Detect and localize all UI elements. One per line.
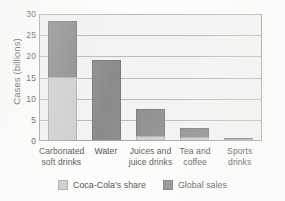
chart-figure: Cases (billions) 051015202530 Carbonated… <box>0 0 285 201</box>
x-axis-label-tea-and-coffee: Tea andcoffee <box>173 146 218 167</box>
y-axis-tick-20: 20 <box>26 51 36 61</box>
x-axis-label-water: Water <box>84 146 129 167</box>
y-axis-tick-25: 25 <box>26 30 36 40</box>
bar-slot <box>40 15 84 140</box>
legend-swatch-icon <box>58 180 68 190</box>
y-axis-tick-30: 30 <box>26 9 36 19</box>
bar-water[interactable] <box>92 60 121 140</box>
y-axis-tick-10: 10 <box>26 94 36 104</box>
x-axis-tick-labels: Carbonatedsoft drinksWaterJuices andjuic… <box>39 146 262 167</box>
bar-segment-coca-cola-share <box>224 139 253 140</box>
bar-segment-coca-cola-share <box>48 77 77 140</box>
legend-swatch-icon <box>163 180 173 190</box>
bar-slot <box>128 15 172 140</box>
bar-juices-and-juice-drinks[interactable] <box>136 109 165 140</box>
chart-legend: Coca-Cola's shareGlobal sales <box>0 180 285 190</box>
x-axis-label-line: Sports <box>217 146 262 157</box>
y-axis-tick-0: 0 <box>31 136 36 146</box>
legend-item[interactable]: Global sales <box>163 180 227 190</box>
y-axis-tick-labels: 051015202530 <box>18 14 36 141</box>
bar-segment-global-sales <box>136 109 165 137</box>
x-axis-label-carbonated-soft-drinks: Carbonatedsoft drinks <box>39 146 84 167</box>
y-axis-tick-5: 5 <box>31 115 36 125</box>
bar-series-group <box>40 15 261 140</box>
bar-sports-drinks[interactable] <box>224 138 253 140</box>
legend-item[interactable]: Coca-Cola's share <box>58 180 146 190</box>
bar-segment-global-sales <box>180 128 209 136</box>
bar-tea-and-coffee[interactable] <box>180 128 209 140</box>
bar-slot <box>84 15 128 140</box>
legend-label: Global sales <box>178 180 227 190</box>
bar-segment-coca-cola-share <box>136 136 165 140</box>
y-axis-tick-15: 15 <box>26 73 36 83</box>
x-axis-label-line: Tea and <box>173 146 218 157</box>
bar-slot <box>217 15 261 140</box>
bar-carbonated-soft-drinks[interactable] <box>48 21 77 140</box>
x-axis-label-line: juice drinks <box>128 157 173 168</box>
x-axis-label-line: drinks <box>217 157 262 168</box>
x-axis-label-line: coffee <box>173 157 218 168</box>
plot-area <box>39 14 262 141</box>
bar-segment-coca-cola-share <box>180 137 209 140</box>
x-axis-label-sports-drinks: Sportsdrinks <box>217 146 262 167</box>
x-axis-label-line: soft drinks <box>39 157 84 168</box>
bar-segment-global-sales <box>92 60 121 140</box>
x-axis-label-line: Juices and <box>128 146 173 157</box>
legend-label: Coca-Cola's share <box>73 180 146 190</box>
bar-slot <box>173 15 217 140</box>
x-axis-label-line: Water <box>84 146 129 157</box>
x-axis-label-juices-and-juice-drinks: Juices andjuice drinks <box>128 146 173 167</box>
bar-segment-global-sales <box>48 21 77 78</box>
x-axis-label-line: Carbonated <box>39 146 84 157</box>
